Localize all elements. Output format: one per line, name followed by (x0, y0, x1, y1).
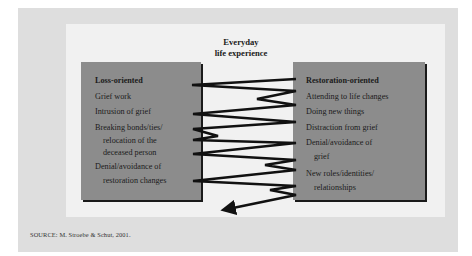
source-citation: SOURCE: M. Stroebe & Schut, 2001. (30, 231, 131, 238)
oscillation-zigzag-arrow (0, 0, 472, 256)
